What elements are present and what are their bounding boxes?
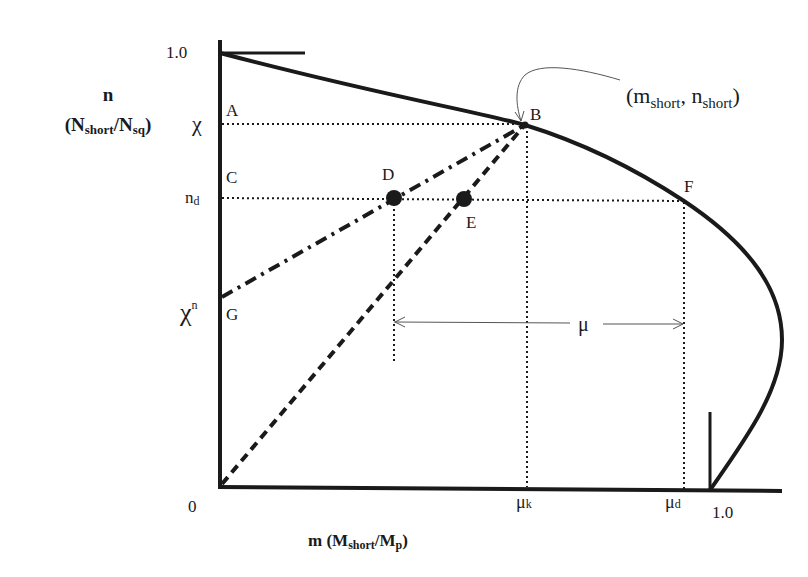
dotted-line-nd bbox=[222, 198, 684, 201]
y-axis-title-main: n bbox=[103, 84, 114, 105]
label-a: A bbox=[226, 101, 239, 120]
dashed-line-ob bbox=[222, 127, 523, 484]
y-tick-chin: χn bbox=[179, 298, 198, 327]
point-e-marker bbox=[456, 191, 472, 207]
dashdot-line-gb bbox=[222, 126, 523, 297]
label-g: G bbox=[226, 305, 238, 324]
label-d: D bbox=[382, 165, 394, 184]
interaction-curve bbox=[220, 53, 782, 490]
interaction-diagram: n (Nshort/Nsq) 1.0 χ nd χn A B C D E F G… bbox=[0, 0, 808, 577]
x-axis bbox=[218, 487, 782, 491]
y-tick-chi: χ bbox=[191, 111, 202, 136]
label-c: C bbox=[226, 168, 237, 187]
label-b: B bbox=[530, 105, 541, 124]
mu-arrow-left bbox=[394, 322, 570, 323]
y-axis-title-sub: (Nshort/Nsq) bbox=[65, 114, 152, 137]
label-e: E bbox=[466, 213, 476, 232]
x-tick-mud: μd bbox=[665, 492, 681, 512]
x-axis-title: m (Mshort/Mp) bbox=[308, 531, 408, 552]
point-b-marker bbox=[522, 122, 529, 129]
x-tick-1: 1.0 bbox=[712, 503, 733, 522]
y-tick-nd: nd bbox=[185, 188, 200, 208]
x-tick-0: 0 bbox=[188, 497, 197, 516]
x-tick-muk: μk bbox=[516, 492, 532, 512]
point-d-marker bbox=[386, 190, 402, 206]
y-tick-1: 1.0 bbox=[166, 43, 187, 62]
mu-label: μ bbox=[578, 313, 589, 336]
annotation-label: (mshort, nshort) bbox=[626, 83, 740, 111]
label-f: F bbox=[684, 177, 693, 196]
